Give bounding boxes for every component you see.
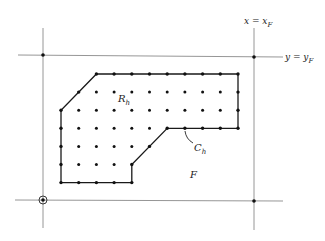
interior-grid-point xyxy=(113,127,116,130)
boundary-grid-point xyxy=(112,72,115,75)
interior-grid-point xyxy=(166,109,169,112)
boundary-grid-point xyxy=(77,90,80,93)
boundary-grid-point xyxy=(130,163,133,166)
boundary-grid-point xyxy=(219,72,222,75)
interior-grid-point xyxy=(130,127,133,130)
boundary-grid-point xyxy=(59,109,62,112)
boundary-grid-point xyxy=(130,181,133,184)
interior-grid-point xyxy=(183,109,186,112)
interior-grid-point xyxy=(130,109,133,112)
interior-grid-point xyxy=(113,91,116,94)
interior-grid-point xyxy=(183,91,186,94)
interior-grid-point xyxy=(219,91,222,94)
boundary-grid-point xyxy=(183,127,186,130)
frame-corner-bottom-right xyxy=(252,199,256,203)
interior-grid-point xyxy=(201,109,204,112)
label-region-Rh: Rh xyxy=(117,93,130,107)
interior-grid-point xyxy=(113,145,116,148)
interior-grid-point xyxy=(95,109,98,112)
interior-grid-point xyxy=(77,163,80,166)
boundary-grid-point xyxy=(201,127,204,130)
boundary-grid-point xyxy=(183,72,186,75)
boundary-grid-point xyxy=(166,72,169,75)
label-y-eq-yF: y = yF xyxy=(284,52,314,65)
boundary-grid-point xyxy=(148,72,151,75)
curve-label-leader xyxy=(185,131,193,143)
interior-grid-point xyxy=(166,91,169,94)
boundary-grid-point xyxy=(236,127,239,130)
diagram-canvas: x = xF y = yF Rh Ch F xyxy=(0,0,325,241)
frame-corner-top-left xyxy=(41,53,45,57)
boundary-grid-point xyxy=(236,109,239,112)
label-x-eq-xF: x = xF xyxy=(244,16,273,29)
boundary-grid-point xyxy=(219,127,222,130)
boundary-grid-point xyxy=(59,145,62,148)
origin-marker-dot xyxy=(41,198,45,202)
boundary-grid-point xyxy=(236,72,239,75)
interior-grid-point xyxy=(95,127,98,130)
interior-grid-point xyxy=(77,145,80,148)
interior-grid-point xyxy=(219,109,222,112)
boundary-grid-point xyxy=(59,181,62,184)
interior-grid-point xyxy=(130,145,133,148)
bottom-horizontal-line xyxy=(15,200,283,201)
label-outer-F: F xyxy=(189,169,198,180)
boundary-grid-point xyxy=(236,90,239,93)
frame-corner-top-right xyxy=(252,55,256,59)
boundary-grid-point xyxy=(201,72,204,75)
interior-grid-point xyxy=(130,91,133,94)
boundary-grid-point xyxy=(112,181,115,184)
interior-grid-point xyxy=(148,91,151,94)
boundary-grid-point xyxy=(166,127,169,130)
boundary-grid-point xyxy=(95,181,98,184)
region-grid-diagram: x = xF y = yF Rh Ch F xyxy=(0,0,325,241)
boundary-grid-point xyxy=(77,181,80,184)
interior-grid-point xyxy=(201,91,204,94)
boundary-grid-point xyxy=(59,163,62,166)
interior-grid-point xyxy=(77,109,80,112)
interior-grid-point xyxy=(77,127,80,130)
interior-grid-point xyxy=(95,163,98,166)
top-horizontal-line-y-eq-yF xyxy=(18,55,283,57)
boundary-grid-point xyxy=(95,72,98,75)
interior-grid-point xyxy=(95,145,98,148)
label-curve-Ch: Ch xyxy=(194,142,206,156)
interior-grid-point xyxy=(148,127,151,130)
interior-grid-point xyxy=(113,109,116,112)
boundary-grid-point xyxy=(130,72,133,75)
boundary-grid-point xyxy=(59,127,62,130)
interior-grid-point xyxy=(148,109,151,112)
interior-grid-point xyxy=(95,91,98,94)
interior-grid-point xyxy=(113,163,116,166)
boundary-grid-point xyxy=(148,145,151,148)
